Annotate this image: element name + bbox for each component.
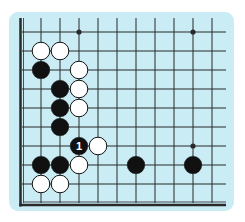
move-number-label: 1 xyxy=(76,140,82,152)
white-stone xyxy=(32,42,50,60)
black-stone xyxy=(51,118,69,136)
star-point-icon xyxy=(190,143,195,148)
black-stone xyxy=(51,99,69,117)
black-stone xyxy=(51,156,69,174)
white-stone xyxy=(70,80,88,98)
white-stone xyxy=(70,99,88,117)
black-stone xyxy=(32,61,50,79)
black-stone xyxy=(127,156,145,174)
black-stone xyxy=(184,156,202,174)
black-stone xyxy=(32,156,50,174)
white-stone xyxy=(89,137,107,155)
white-stone xyxy=(32,175,50,193)
star-point-icon xyxy=(190,29,195,34)
star-point-icon xyxy=(76,29,81,34)
go-board-diagram: 1 xyxy=(0,0,245,222)
white-stone xyxy=(51,42,69,60)
go-board: 1 xyxy=(0,0,245,222)
black-stone: 1 xyxy=(70,137,88,155)
white-stone xyxy=(70,61,88,79)
white-stone xyxy=(51,175,69,193)
black-stone xyxy=(51,80,69,98)
white-stone xyxy=(70,156,88,174)
